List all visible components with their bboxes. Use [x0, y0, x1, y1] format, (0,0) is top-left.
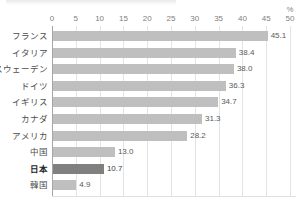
x-tick-40: 40 — [238, 14, 247, 23]
x-tick-15: 15 — [119, 14, 128, 23]
value-label: 38.0 — [237, 61, 253, 77]
x-axis-unit-label: % — [287, 5, 294, 14]
chart-title-remnant — [6, 0, 176, 5]
bar — [53, 64, 234, 74]
bar — [53, 48, 236, 58]
bar — [53, 164, 104, 174]
category-label: フランス — [0, 28, 48, 44]
bar-row: 日本10.7 — [0, 161, 306, 177]
category-label: カナダ — [0, 111, 48, 127]
bar-row: イギリス34.7 — [0, 94, 306, 110]
value-label: 10.7 — [107, 161, 123, 177]
bar — [53, 147, 115, 157]
bar — [53, 81, 226, 91]
category-label: ドイツ — [0, 78, 48, 94]
bar — [53, 97, 218, 107]
x-tick-5: 5 — [74, 14, 78, 23]
category-label: イタリア — [0, 45, 48, 61]
x-tick-0: 0 — [50, 14, 54, 23]
bar-row: イタリア38.4 — [0, 45, 306, 61]
value-label: 4.9 — [79, 177, 90, 193]
x-tick-10: 10 — [95, 14, 104, 23]
x-tick-50: 50 — [286, 14, 295, 23]
bar — [53, 131, 187, 141]
bar — [53, 180, 76, 190]
x-tick-35: 35 — [214, 14, 223, 23]
category-label: イギリス — [0, 94, 48, 110]
value-label: 34.7 — [221, 94, 237, 110]
value-label: 31.3 — [205, 111, 221, 127]
bar — [53, 31, 268, 41]
category-label: 中国 — [0, 144, 48, 160]
bar-row: フランス45.1 — [0, 28, 306, 44]
bar-chart: 05101520253035404550 % フランス45.1イタリア38.4ス… — [0, 0, 306, 206]
category-label: スウェーデン — [0, 61, 48, 77]
x-tick-45: 45 — [262, 14, 271, 23]
bar — [53, 114, 202, 124]
value-label: 36.3 — [229, 78, 245, 94]
value-label: 45.1 — [271, 28, 287, 44]
bar-row: ドイツ36.3 — [0, 78, 306, 94]
bar-row: 韓国4.9 — [0, 177, 306, 193]
x-tick-25: 25 — [167, 14, 176, 23]
bar-row: スウェーデン38.0 — [0, 61, 306, 77]
x-tick-20: 20 — [143, 14, 152, 23]
bar-row: 中国13.0 — [0, 144, 306, 160]
value-label: 38.4 — [239, 45, 255, 61]
bar-row: アメリカ28.2 — [0, 128, 306, 144]
category-label: 日本 — [0, 161, 48, 177]
category-label: アメリカ — [0, 128, 48, 144]
x-tick-30: 30 — [190, 14, 199, 23]
value-label: 28.2 — [190, 128, 206, 144]
x-axis-baseline — [52, 196, 296, 197]
value-label: 13.0 — [118, 144, 134, 160]
category-label: 韓国 — [0, 177, 48, 193]
bar-row: カナダ31.3 — [0, 111, 306, 127]
